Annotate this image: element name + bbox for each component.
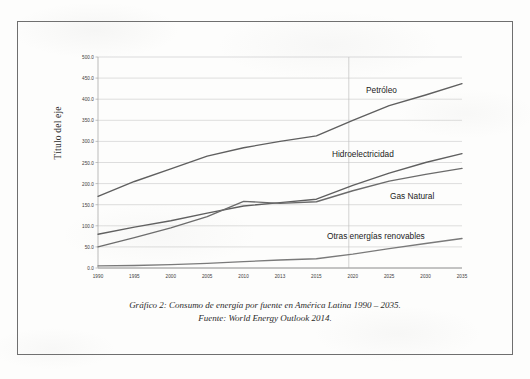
series-label-1: Petróleo bbox=[366, 85, 397, 95]
series-line-4 bbox=[98, 238, 462, 265]
caption-line-1: Gráfico 2: Consumo de energía por fuente… bbox=[17, 299, 513, 312]
series-line-1 bbox=[98, 84, 462, 197]
figure-caption: Gráfico 2: Consumo de energía por fuente… bbox=[17, 299, 513, 324]
series-label-2: Hidroelectricidad bbox=[332, 149, 394, 159]
series-label-4: Otras energías renovables bbox=[327, 231, 425, 241]
caption-line-2: Fuente: World Energy Outlook 2014. bbox=[17, 312, 513, 325]
series-label-3: Gas Natural bbox=[390, 191, 434, 201]
